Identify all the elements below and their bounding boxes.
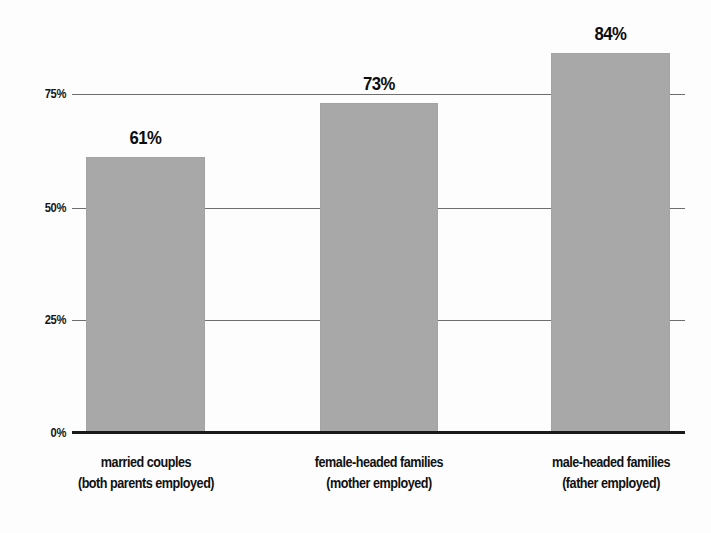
bar-value-married-couples: 61% bbox=[93, 128, 198, 147]
plot-area: 75% 50% 25% 0% 61% 73% 84% married coupl… bbox=[0, 0, 711, 533]
bar-male-headed-families[interactable] bbox=[551, 53, 670, 433]
ytick-label-25: 25% bbox=[25, 313, 66, 326]
category-label-line1: married couples bbox=[63, 452, 228, 473]
category-label-female-headed-families: female-headed families (mother employed) bbox=[284, 452, 474, 493]
category-label-line2: (mother employed) bbox=[296, 473, 461, 494]
category-label-line1: male-headed families bbox=[528, 452, 693, 473]
category-label-line2: (both parents employed) bbox=[63, 473, 228, 494]
category-label-line2: (father employed) bbox=[528, 473, 693, 494]
bar-chart: 75% 50% 25% 0% 61% 73% 84% married coupl… bbox=[0, 0, 711, 533]
ytick-25: 25% bbox=[0, 313, 66, 327]
axis-baseline bbox=[72, 431, 685, 434]
ytick-label-50: 50% bbox=[25, 201, 66, 214]
ytick-label-75: 75% bbox=[25, 87, 66, 100]
bar-value-female-headed-families: 73% bbox=[327, 74, 431, 93]
ytick-50: 50% bbox=[0, 201, 66, 215]
bar-female-headed-families[interactable] bbox=[320, 103, 438, 433]
bar-married-couples[interactable] bbox=[86, 157, 205, 433]
bar-value-male-headed-families: 84% bbox=[558, 24, 663, 43]
ytick-label-0: 0% bbox=[25, 426, 66, 439]
category-label-line1: female-headed families bbox=[296, 452, 461, 473]
ytick-75: 75% bbox=[0, 87, 66, 101]
ytick-0: 0% bbox=[0, 426, 66, 440]
category-label-male-headed-families: male-headed families (father employed) bbox=[516, 452, 706, 493]
category-label-married-couples: married couples (both parents employed) bbox=[51, 452, 241, 493]
